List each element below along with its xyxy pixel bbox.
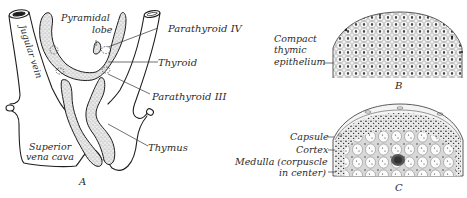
panel-label-c: C: [395, 183, 403, 193]
label-capsule: Capsule: [290, 132, 329, 142]
label-superior-vena-cava-line2: vena cava: [26, 152, 74, 162]
label-epithelium: epithelium: [274, 57, 326, 67]
label-thymic: thymic: [274, 45, 307, 55]
label-parathyroid-iv: Parathyroid IV: [168, 24, 242, 34]
label-compact: Compact: [274, 34, 317, 44]
panel-b-drawing: [324, 12, 463, 78]
panel-label-a: A: [79, 177, 86, 187]
panel-c-drawing: [328, 104, 463, 176]
label-pyramidal-lobe-line2: lobe: [92, 25, 112, 35]
label-pyramidal-lobe-line1: Pyramidal: [61, 13, 110, 23]
label-medulla-line1: Medulla (corpuscle: [235, 157, 328, 167]
label-parathyroid-iii: Parathyroid III: [152, 92, 227, 102]
label-medulla-line2: in center): [279, 168, 326, 178]
label-thymus: Thymus: [148, 143, 188, 153]
label-cortex: Cortex: [296, 145, 328, 155]
panel-label-b: B: [395, 81, 402, 91]
label-thyroid: Thyroid: [158, 58, 197, 68]
